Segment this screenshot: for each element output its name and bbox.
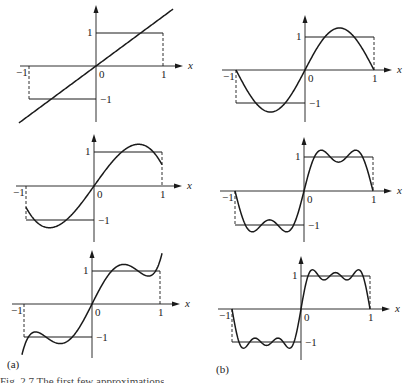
plot-a3-x-axis-arrow-icon <box>172 302 180 307</box>
plot-a3-label-y-minus-one: −1 <box>96 332 108 343</box>
plot-b2-label-y-one: 1 <box>295 151 301 162</box>
plot-b3-x-axis-arrow-icon <box>382 307 390 312</box>
figure-canvas <box>0 0 413 383</box>
plot-b1-x-axis-arrow-icon <box>384 68 392 73</box>
plot-b2-y-axis-arrow-icon <box>302 137 307 145</box>
plot-a2-label-y-minus-one: −1 <box>98 215 110 226</box>
plot-a3-label-x-axis: x <box>185 298 190 309</box>
plot-b3-label-x-axis: x <box>395 303 400 314</box>
plot-b2-label-origin: 0 <box>307 194 313 205</box>
plot-b3-y-axis-arrow-icon <box>299 256 304 264</box>
figure-caption: Fig. 2.7 The first few approximations <box>0 375 164 383</box>
plot-a2-label-x-minus-one: −1 <box>13 187 25 198</box>
plot-a1-label-y-minus-one: −1 <box>100 94 112 105</box>
plot-a1-label-x-minus-one: −1 <box>16 67 28 78</box>
plot-b1-label-y-one: 1 <box>296 31 302 42</box>
plot-a1-label-y-one: 1 <box>87 27 93 38</box>
plot-a3-y-axis-arrow-icon <box>90 250 95 258</box>
plot-a2-label-x-one: 1 <box>160 189 166 200</box>
plot-b1-label-y-minus-one: −1 <box>309 98 321 109</box>
plot-b1-y-axis-arrow-icon <box>303 15 308 23</box>
plot-a1-label-x-one: 1 <box>161 69 167 80</box>
plot-b2-label-x-axis: x <box>397 185 402 196</box>
plot-b2-label-y-minus-one: −1 <box>308 220 320 231</box>
plot-a1-label-x-axis: x <box>188 60 193 71</box>
plot-a3-label-x-one: 1 <box>158 307 164 318</box>
plot-a1-y-axis-arrow-icon <box>94 5 99 13</box>
panel-label-b: (b) <box>216 363 229 375</box>
plot-a1-label-origin: 0 <box>99 69 105 80</box>
plot-a3-label-x-minus-one: −1 <box>11 305 23 316</box>
plot-a3-label-origin: 0 <box>95 307 101 318</box>
plot-b3-label-origin: 0 <box>304 312 310 323</box>
plot-a2-x-axis-arrow-icon <box>174 184 182 189</box>
plot-a3-label-y-one: 1 <box>83 265 89 276</box>
plot-a2-y-axis-arrow-icon <box>92 134 97 142</box>
plot-a2-label-origin: 0 <box>97 189 103 200</box>
plot-b2-x-axis-arrow-icon <box>384 189 392 194</box>
plot-b3-label-x-minus-one: −1 <box>219 310 231 321</box>
plot-b2-label-x-one: 1 <box>371 194 377 205</box>
plot-b1-label-x-one: 1 <box>372 73 378 84</box>
plot-a1-x-axis-arrow-icon <box>175 64 183 69</box>
plot-b2-label-x-minus-one: −1 <box>222 192 234 203</box>
plot-b3-label-x-one: 1 <box>368 312 374 323</box>
plot-b1-label-x-axis: x <box>397 64 402 75</box>
panel-label-a: (a) <box>7 358 19 370</box>
plot-b1-label-origin: 0 <box>308 73 314 84</box>
plot-b3-label-y-minus-one: −1 <box>305 337 317 348</box>
plot-b1-label-x-minus-one: −1 <box>223 71 235 82</box>
plot-b3-label-y-one: 1 <box>292 270 298 281</box>
plot-a2-label-y-one: 1 <box>85 146 91 157</box>
plot-a2-label-x-axis: x <box>187 180 192 191</box>
